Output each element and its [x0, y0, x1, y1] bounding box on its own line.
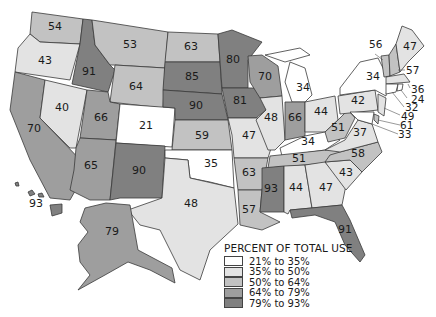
- legend-swatch: [224, 298, 243, 308]
- legend-swatch: [224, 267, 243, 277]
- label-NV: 40: [55, 101, 69, 114]
- legend-swatch: [224, 256, 243, 266]
- label-TX: 48: [184, 197, 198, 210]
- label-OR: 43: [38, 54, 52, 67]
- label-MN: 80: [226, 53, 240, 66]
- label-CA: 70: [27, 122, 41, 135]
- leader-MA: [408, 84, 410, 88]
- legend-label: 50% to 64%: [249, 277, 310, 288]
- label-NM: 90: [132, 164, 146, 177]
- label-LA: 57: [242, 203, 256, 216]
- label-MO: 47: [242, 129, 256, 142]
- label-IL: 48: [264, 111, 278, 124]
- label-MT: 53: [123, 38, 137, 51]
- label-ND: 63: [184, 40, 198, 53]
- us-choropleth-map: 54 43 70 40 91 53 64 66 65 21 90 63 85 9…: [0, 0, 436, 317]
- legend-label: 64% to 79%: [249, 287, 310, 298]
- legend-item: 21% to 35%: [224, 256, 374, 267]
- label-TN: 51: [292, 152, 306, 165]
- label-SD: 85: [185, 70, 199, 83]
- label-KY: 34: [301, 135, 315, 148]
- label-FL: 91: [338, 223, 352, 236]
- label-WA: 54: [48, 20, 62, 33]
- legend-item: 35% to 50%: [224, 267, 374, 278]
- label-AL: 44: [289, 181, 303, 194]
- label-AR: 63: [242, 166, 256, 179]
- label-VA: 37: [353, 126, 367, 139]
- legend-item: 64% to 79%: [224, 288, 374, 299]
- legend: PERCENT OF TOTAL USE 21% to 35% 35% to 5…: [224, 242, 374, 309]
- label-NH: 57: [406, 64, 419, 76]
- label-OH: 44: [314, 105, 328, 118]
- label-UT: 66: [94, 111, 108, 124]
- label-AZ: 65: [84, 159, 98, 172]
- label-OK: 35: [204, 157, 218, 170]
- label-IA: 81: [233, 94, 247, 107]
- label-NY: 34: [366, 70, 380, 83]
- state-CT: [386, 84, 398, 94]
- state-NY: [340, 58, 388, 96]
- label-CO: 21: [139, 119, 153, 132]
- label-PA: 42: [351, 94, 365, 107]
- state-NJ: [378, 94, 386, 116]
- legend-swatch: [224, 277, 243, 287]
- label-MS: 93: [264, 182, 278, 195]
- label-ME: 47: [403, 40, 417, 53]
- label-WV: 51: [331, 121, 345, 134]
- label-SC: 43: [339, 166, 353, 179]
- label-WY: 64: [129, 80, 143, 93]
- leader-CT: [392, 92, 404, 107]
- state-DE: [374, 114, 379, 124]
- label-MI: 34: [296, 81, 310, 94]
- leader-DE: [378, 120, 400, 125]
- legend-swatch: [224, 288, 243, 298]
- state-RI: [397, 84, 403, 91]
- leader-NJ: [384, 108, 400, 115]
- label-AK: 79: [105, 225, 119, 238]
- label-VT: 56: [369, 38, 383, 50]
- legend-title: PERCENT OF TOTAL USE: [224, 242, 374, 254]
- label-HI: 93: [29, 197, 43, 210]
- label-ID: 91: [82, 65, 96, 78]
- legend-label: 79% to 93%: [249, 298, 310, 309]
- label-NC: 58: [351, 147, 365, 160]
- label-MD: 33: [398, 128, 411, 140]
- leader-RI: [401, 90, 407, 98]
- legend-label: 35% to 50%: [249, 266, 310, 277]
- legend-label: 21% to 35%: [249, 256, 310, 267]
- label-WI: 70: [258, 70, 272, 83]
- label-IN: 66: [288, 111, 302, 124]
- label-NE: 90: [189, 99, 203, 112]
- leader-MD: [372, 124, 398, 134]
- label-GA: 47: [319, 181, 333, 194]
- legend-item: 79% to 93%: [224, 298, 374, 309]
- legend-item: 50% to 64%: [224, 277, 374, 288]
- label-KS: 59: [195, 129, 209, 142]
